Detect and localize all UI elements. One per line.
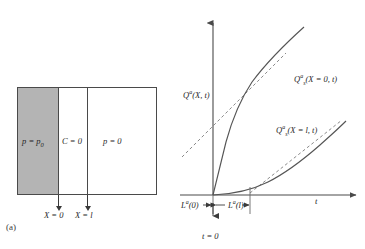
origin-label: t = 0 [202,231,219,241]
boundary-line-x-ell [87,87,88,195]
lag-label-zero: La(0) [181,199,199,210]
curve-label-x-zero: Qas(X = 0, t) [294,73,337,86]
pointer-arrow-x-ell [87,195,88,209]
panel-b: Qa(X, t) Qas(X = 0, t) Qas(X = l, t) t t… [180,0,365,249]
boundary-line-x-zero [58,87,59,195]
curve-label-x-ell: Qas(X = l, t) [276,124,317,137]
panel-a: p = p0 C = 0 p = 0 X = 0 X = l (a) [0,0,180,249]
pointer-arrow-x-zero [58,195,59,209]
region-label-pressure-inlet: p = p0 [22,136,44,148]
axis-label-x-ell: X = l [75,210,93,220]
y-axis-label: Qa(X, t) [183,89,210,100]
asymptote-x-zero [182,53,286,157]
plot-svg [180,0,365,249]
figure-root: p = p0 C = 0 p = 0 X = 0 X = l (a) [0,0,365,249]
region-label-pressure-outlet: p = 0 [103,136,122,146]
region-label-concentration: C = 0 [62,136,82,146]
panel-a-caption: (a) [6,222,16,232]
x-axis-label: t [315,196,317,206]
lag-label-ell: La(l) [228,199,244,210]
axis-label-x-zero: X = 0 [44,210,63,220]
curve-x-zero [213,27,304,195]
